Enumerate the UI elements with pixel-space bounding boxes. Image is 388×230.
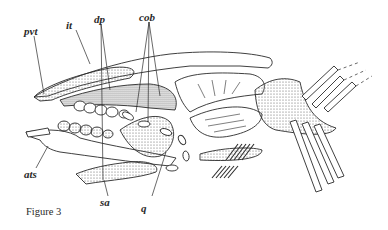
label-cob: cob — [139, 12, 155, 23]
label-ats: ats — [24, 169, 37, 180]
label-it: it — [66, 20, 72, 31]
fish-skull-drawing — [0, 0, 388, 230]
label-pvt: pvt — [24, 26, 37, 37]
label-dp: dp — [94, 14, 105, 25]
label-sa: sa — [100, 197, 110, 208]
figure-caption: Figure 3 — [26, 206, 61, 217]
label-q: q — [141, 203, 147, 214]
anatomical-figure — [0, 0, 388, 230]
